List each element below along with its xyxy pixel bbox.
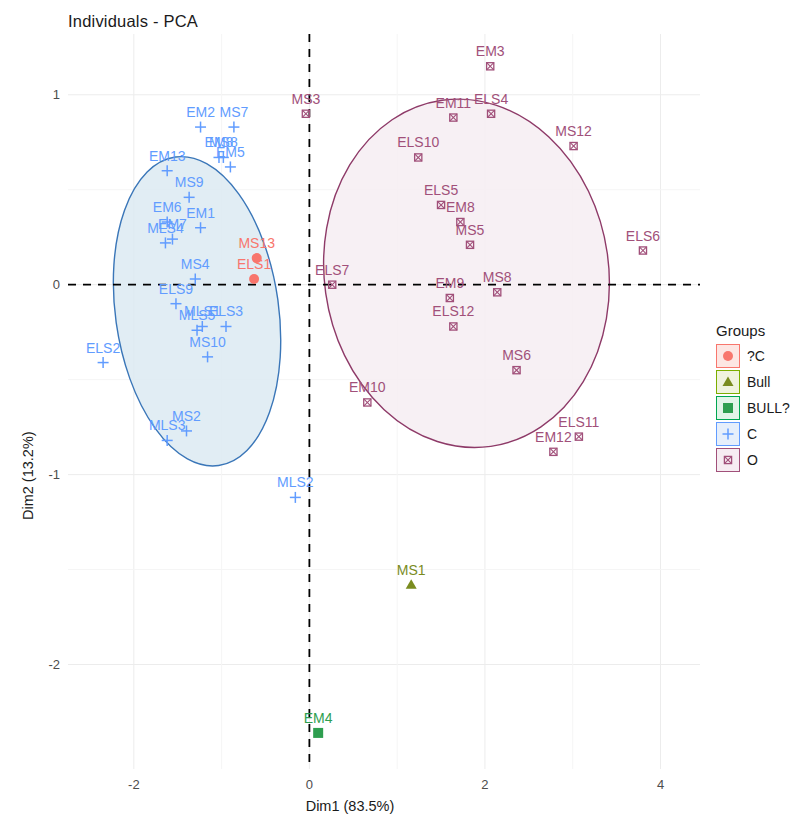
x-tick-label: -2 (109, 777, 159, 792)
point-label-em13: EM13 (149, 149, 186, 163)
legend-marker-square-x-icon[interactable] (724, 456, 731, 463)
legend-item-label: BULL? (747, 400, 790, 416)
legend-key-circle-icon (716, 344, 740, 368)
legend-item-label: O (747, 452, 758, 468)
point-label-ms10: MS10 (189, 335, 226, 349)
plot-area: 10-1-2-2024 EM2MS7EM8MS8EM5EM13MS9EM6EM1… (68, 34, 700, 769)
point-label-ms8b: MS8 (483, 270, 512, 284)
page-title: Individuals - PCA (68, 12, 198, 31)
legend-key-square-icon (716, 396, 740, 420)
point-label-ms13: MS13 (238, 236, 275, 250)
point-label-els6: ELS6 (626, 229, 660, 243)
point-label-mls2: MLS2 (277, 475, 314, 489)
y-tick-label: -2 (20, 657, 60, 672)
legend-item-bull[interactable]: Bull (716, 369, 802, 395)
x-tick-label: 0 (284, 777, 334, 792)
x-tick-label: 2 (460, 777, 510, 792)
point-label-em8b: EM8 (446, 200, 475, 214)
data-point-els1[interactable] (249, 274, 259, 284)
point-label-els2: ELS2 (86, 341, 120, 355)
legend-marker-circle-icon[interactable] (723, 351, 733, 361)
data-point-ms12[interactable] (570, 142, 577, 149)
data-point-em4[interactable] (313, 728, 323, 738)
point-label-em12: EM12 (535, 430, 572, 444)
data-point-ms1[interactable] (406, 579, 417, 589)
legend-item-c[interactable]: ?C (716, 343, 802, 369)
legend-item-c[interactable]: C (716, 421, 802, 447)
point-label-em1: EM1 (186, 206, 215, 220)
point-label-els10: ELS10 (397, 135, 439, 149)
x-axis-title: Dim1 (83.5%) (0, 798, 700, 814)
point-label-ms7: MS7 (219, 105, 248, 119)
point-label-em2: EM2 (186, 105, 215, 119)
point-label-els3: ELS3 (209, 304, 243, 318)
data-point-em3[interactable] (487, 63, 494, 70)
legend-marker-plus-icon[interactable] (723, 429, 734, 440)
data-point-em5[interactable] (225, 161, 236, 172)
data-point-els6[interactable] (639, 247, 646, 254)
legend-item-bull[interactable]: BULL? (716, 395, 802, 421)
point-label-em10: EM10 (349, 380, 386, 394)
point-label-ms3: MS3 (291, 92, 320, 106)
point-label-em11: EM11 (436, 96, 472, 110)
y-tick-label: 0 (20, 277, 60, 292)
legend-key-triangle-icon (716, 370, 740, 394)
data-point-els2[interactable] (98, 357, 109, 368)
point-label-ms6: MS6 (502, 348, 531, 362)
x-tick-label: 4 (636, 777, 686, 792)
point-label-els12: ELS12 (432, 304, 474, 318)
point-label-mls4: MLS4 (147, 221, 184, 235)
point-label-els4: ELS4 (474, 92, 508, 106)
point-label-ms9: MS9 (175, 175, 204, 189)
point-label-els1: ELS1 (237, 257, 271, 271)
legend: Groups ?CBullBULL?CO (716, 322, 802, 473)
pca-scatter-plot-figure: Individuals - PCA 10-1-2-2024 EM2MS7EM8M… (0, 0, 805, 832)
data-point-em12[interactable] (550, 448, 557, 455)
data-point-els11[interactable] (575, 433, 582, 440)
plot-canvas (68, 34, 700, 769)
legend-title: Groups (716, 322, 802, 339)
y-tick-label: 1 (20, 87, 60, 102)
legend-items: ?CBullBULL?CO (716, 343, 802, 473)
data-point-em10[interactable] (364, 399, 371, 406)
point-label-ms12: MS12 (555, 124, 592, 138)
point-label-els11: ELS11 (558, 415, 599, 429)
legend-item-label: C (747, 426, 757, 442)
point-label-ms5: MS5 (456, 223, 485, 237)
point-label-mls3: MLS3 (149, 418, 186, 432)
data-point-mls2[interactable] (290, 492, 301, 503)
legend-key-plus-icon (716, 422, 740, 446)
point-label-ms4: MS4 (181, 257, 210, 271)
point-label-els5: ELS5 (424, 183, 458, 197)
data-point-ms7[interactable] (228, 122, 239, 133)
data-point-em2[interactable] (195, 122, 206, 133)
point-label-em5: EM5 (216, 145, 245, 159)
point-label-em3: EM3 (476, 44, 505, 58)
point-label-em6: EM6 (153, 200, 182, 214)
y-axis-title: Dim2 (13.2%) (20, 431, 36, 520)
point-label-em4: EM4 (304, 711, 333, 725)
point-label-els7: ELS7 (315, 263, 349, 277)
legend-item-label: Bull (747, 374, 770, 390)
legend-item-label: ?C (747, 348, 765, 364)
legend-marker-square-icon[interactable] (723, 403, 733, 413)
legend-marker-triangle-icon[interactable] (723, 377, 734, 387)
point-label-els9: ELS9 (159, 282, 193, 296)
legend-item-o[interactable]: O (716, 447, 802, 473)
point-label-ms1: MS1 (397, 563, 426, 577)
legend-key-square-x-icon (716, 448, 740, 472)
point-label-em9: EM9 (435, 276, 464, 290)
data-point-ms3[interactable] (302, 110, 309, 117)
